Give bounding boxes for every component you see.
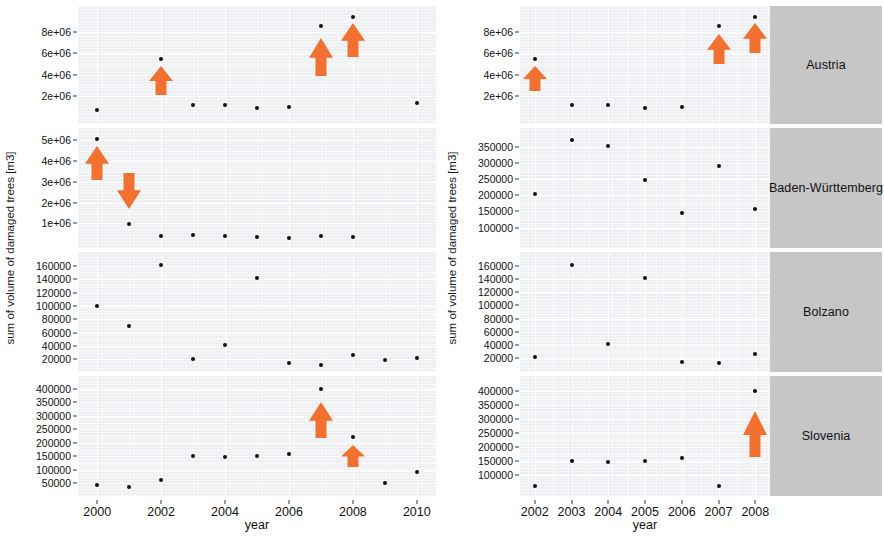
data-point <box>717 24 721 28</box>
data-point <box>717 361 721 365</box>
data-point <box>287 105 291 109</box>
annotation-up-arrow <box>742 22 768 54</box>
data-point <box>319 387 323 391</box>
data-point <box>223 234 227 238</box>
data-point <box>570 263 574 267</box>
data-point <box>753 207 757 211</box>
y-tick-labels: 1e+062e+063e+064e+065e+06 <box>22 128 78 248</box>
plot-area <box>78 376 436 496</box>
x-tick-mark <box>534 500 535 504</box>
data-point <box>255 235 259 239</box>
y-tick-label: 160000 <box>36 260 71 272</box>
gridline-vertical-minor <box>663 376 664 496</box>
y-tick-label: 400000 <box>478 385 513 397</box>
data-point <box>95 108 99 112</box>
data-point <box>753 389 757 393</box>
y-tick-label: 140000 <box>36 273 71 285</box>
gridline-vertical-minor <box>385 376 386 496</box>
gridline-vertical-minor <box>627 252 628 372</box>
facet-slovenia: 1000001500002000002500003000003500004000… <box>464 376 882 496</box>
data-point <box>533 57 537 61</box>
gridline-vertical <box>608 252 609 372</box>
data-point <box>127 222 131 226</box>
x-tick-mark <box>645 500 646 504</box>
gridline-vertical-minor <box>385 252 386 372</box>
y-tick-label: 100000 <box>478 469 513 481</box>
gridline-vertical <box>97 376 98 496</box>
facet-austria: 2e+064e+066e+068e+06Austria <box>464 6 882 124</box>
y-tick-label: 150000 <box>478 455 513 467</box>
x-tick-label: 2004 <box>211 505 239 519</box>
data-point <box>287 236 291 240</box>
x-tick-mark <box>97 500 98 504</box>
facet-strip-label: Baden-Württemberg <box>770 128 882 248</box>
gridline-vertical-minor <box>627 6 628 124</box>
data-point <box>223 103 227 107</box>
y-tick-label: 200000 <box>36 437 71 449</box>
data-point <box>223 343 227 347</box>
data-point <box>643 276 647 280</box>
x-tick-label: 2006 <box>668 505 696 519</box>
gridline-vertical-minor <box>321 252 322 372</box>
x-tick-mark <box>416 500 417 504</box>
data-point <box>643 106 647 110</box>
gridline-vertical-minor <box>590 6 591 124</box>
data-point <box>255 454 259 458</box>
y-tick-label: 200000 <box>478 441 513 453</box>
data-point <box>191 357 195 361</box>
gridline-vertical <box>225 376 226 496</box>
y-tick-label: 8e+06 <box>484 26 514 38</box>
y-tick-label: 6e+06 <box>484 47 514 59</box>
y-tick-label: 100000 <box>36 300 71 312</box>
x-tick-label: 2007 <box>705 505 733 519</box>
y-axis-title-right: sum of volume of damaged trees [m3] <box>441 0 463 495</box>
gridline-vertical-minor <box>129 376 130 496</box>
facet-strip-label: Bolzano <box>770 252 882 372</box>
x-tick-mark <box>352 500 353 504</box>
gridline-vertical-minor <box>737 376 738 496</box>
chart-panel-left: sum of volume of damaged trees [m3] 2e+0… <box>0 0 442 541</box>
data-point <box>753 352 757 356</box>
gridline-vertical-minor <box>663 128 664 248</box>
y-tick-label: 300000 <box>36 410 71 422</box>
plot-area <box>520 128 770 248</box>
gridline-vertical-minor <box>385 6 386 124</box>
facet-baden-w-rttemberg: 100000150000200000250000300000350000Bade… <box>464 128 882 248</box>
gridline-vertical <box>682 376 683 496</box>
data-point <box>159 234 163 238</box>
gridline-vertical <box>572 376 573 496</box>
data-point <box>570 138 574 142</box>
y-axis-title-left: sum of volume of damaged trees [m3] <box>0 0 21 495</box>
gridline-vertical-minor <box>590 252 591 372</box>
gridline-vertical <box>417 376 418 496</box>
x-tick-label: 2002 <box>521 505 549 519</box>
data-point <box>255 106 259 110</box>
gridline-vertical <box>289 376 290 496</box>
data-point <box>255 276 259 280</box>
gridline-vertical <box>225 252 226 372</box>
data-point <box>717 164 721 168</box>
gridline-vertical-minor <box>627 128 628 248</box>
annotation-up-arrow <box>742 410 768 458</box>
gridline-vertical <box>608 376 609 496</box>
y-tick-label: 150000 <box>478 205 513 217</box>
x-tick-label: 2004 <box>594 505 622 519</box>
data-point <box>606 144 610 148</box>
gridline-vertical-minor <box>590 376 591 496</box>
gridline-vertical <box>535 376 536 496</box>
gridline-vertical <box>289 252 290 372</box>
plot-area <box>520 252 770 372</box>
data-point <box>606 460 610 464</box>
y-tick-label: 8e+06 <box>42 26 72 38</box>
data-point <box>606 342 610 346</box>
x-tick-mark <box>608 500 609 504</box>
gridline-vertical <box>97 6 98 124</box>
gridline-vertical-minor <box>553 6 554 124</box>
data-point <box>570 103 574 107</box>
y-tick-label: 350000 <box>478 141 513 153</box>
chart-panel-right: sum of volume of damaged trees [m3] 2e+0… <box>442 0 884 541</box>
y-tick-label: 300000 <box>478 157 513 169</box>
data-point <box>351 353 355 357</box>
data-point <box>643 459 647 463</box>
gridline-vertical <box>161 252 162 372</box>
